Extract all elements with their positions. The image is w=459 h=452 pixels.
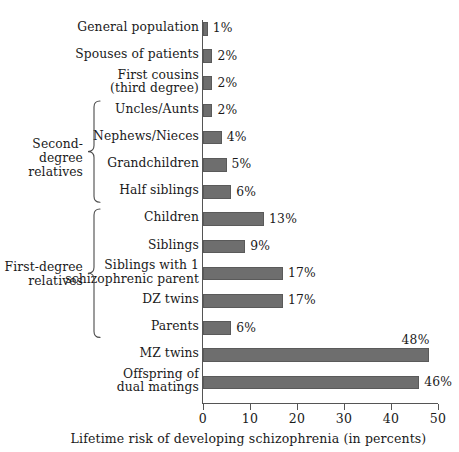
bar xyxy=(203,76,212,90)
bar xyxy=(203,185,231,199)
bar-value-label: 4% xyxy=(227,130,247,144)
x-tick-40 xyxy=(391,404,392,410)
x-tick-0 xyxy=(203,404,204,410)
group-brace xyxy=(86,100,101,203)
bar-value-label: 17% xyxy=(288,266,316,280)
bar xyxy=(203,294,283,308)
bar xyxy=(203,212,264,226)
x-tick-label-10: 10 xyxy=(242,411,259,426)
x-axis-line xyxy=(202,403,438,404)
group-label: First-degree relatives xyxy=(5,260,83,288)
bar-value-label: 5% xyxy=(232,157,252,171)
bar-category-label: Offspring of dual matings xyxy=(117,368,199,395)
bar xyxy=(203,348,429,362)
bar-value-label: 9% xyxy=(250,239,270,253)
bar xyxy=(203,22,208,36)
bar-value-label: 6% xyxy=(236,185,256,199)
bar xyxy=(203,267,283,281)
bar-value-label: 13% xyxy=(269,212,297,226)
bar-value-label: 46% xyxy=(424,375,452,389)
x-tick-label-0: 0 xyxy=(199,411,207,426)
bar-category-label: Half siblings xyxy=(119,184,199,198)
bar-category-label: MZ twins xyxy=(140,347,199,361)
schizophrenia-risk-bar-chart: 0 10 20 30 40 50 Lifetime risk of develo… xyxy=(0,0,459,452)
bar-category-label: Uncles/Aunts xyxy=(115,103,199,117)
bar xyxy=(203,49,212,63)
bar-category-label: General population xyxy=(77,21,199,35)
bar-category-label: Grandchildren xyxy=(107,157,199,171)
bar xyxy=(203,131,222,145)
bar-category-label: Children xyxy=(144,211,199,225)
x-tick-label-20: 20 xyxy=(289,411,306,426)
bar-value-label: 17% xyxy=(288,293,316,307)
bar-value-label: 1% xyxy=(213,21,233,35)
x-tick-10 xyxy=(250,404,251,410)
group-brace xyxy=(86,208,101,338)
bar-value-label: 48% xyxy=(402,333,430,347)
bar-category-label: Siblings xyxy=(148,239,199,253)
bar xyxy=(203,321,231,335)
bar xyxy=(203,104,212,118)
bar xyxy=(203,158,227,172)
bar-category-label: First cousins (third degree) xyxy=(110,69,199,96)
bar-category-label: Parents xyxy=(151,320,199,334)
x-tick-20 xyxy=(297,404,298,410)
bar-value-label: 6% xyxy=(236,321,256,335)
x-tick-30 xyxy=(344,404,345,410)
bar-category-label: Nephews/Nieces xyxy=(93,130,199,144)
bar-category-label: DZ twins xyxy=(142,293,199,307)
x-tick-label-50: 50 xyxy=(430,411,447,426)
bar xyxy=(203,240,245,254)
group-label: Second-degree relatives xyxy=(0,137,83,179)
x-tick-label-30: 30 xyxy=(336,411,353,426)
x-tick-label-40: 40 xyxy=(383,411,400,426)
x-tick-50 xyxy=(438,404,439,410)
bar-category-label: Spouses of patients xyxy=(75,48,199,62)
plot-area: 0 10 20 30 40 50 Lifetime risk of develo… xyxy=(0,0,459,452)
bar xyxy=(203,376,419,390)
bar-value-label: 2% xyxy=(217,49,237,63)
bar-value-label: 2% xyxy=(217,76,237,90)
x-axis-title: Lifetime risk of developing schizophreni… xyxy=(0,431,459,446)
bar-value-label: 2% xyxy=(217,103,237,117)
